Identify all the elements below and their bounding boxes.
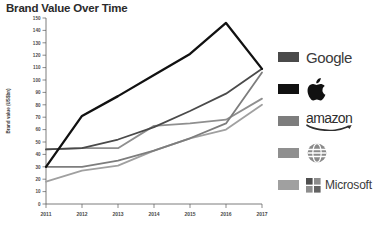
legend-item-microsoft[interactable]: Microsoft <box>278 172 372 198</box>
y-tick-label: 120 <box>33 53 41 58</box>
plot-area: 0102030405060708090100110120130140150201… <box>0 14 270 231</box>
y-tick-label: 70 <box>35 115 41 120</box>
y-tick-label: 100 <box>33 78 41 83</box>
y-tick-label: 150 <box>33 16 41 21</box>
amazon-wordmark-icon: amazon <box>306 110 358 132</box>
x-tick-label: 2014 <box>148 211 159 217</box>
y-tick-label: 30 <box>35 165 41 170</box>
y-tick-label: 60 <box>35 127 41 132</box>
apple-logo-icon <box>306 78 326 100</box>
y-tick-label: 20 <box>35 177 41 182</box>
legend-item-amazon[interactable]: amazon <box>278 108 358 134</box>
legend-item-att[interactable] <box>278 140 328 166</box>
legend-swatch-google <box>278 52 299 62</box>
y-tick-label: 0 <box>38 202 41 207</box>
legend-item-apple[interactable] <box>278 76 326 102</box>
y-tick-label: 40 <box>35 152 41 157</box>
legend-label-google: Google <box>306 49 352 66</box>
x-tick-label: 2015 <box>184 211 195 217</box>
legend-swatch-amazon <box>278 116 299 126</box>
y-tick-label: 50 <box>35 140 41 145</box>
chart-title: Brand Value Over Time <box>6 2 128 14</box>
x-tick-label: 2016 <box>220 211 231 217</box>
x-tick-label: 2017 <box>256 211 267 217</box>
series-line-microsoft <box>46 105 262 182</box>
series-line-att <box>46 99 262 150</box>
legend-swatch-apple <box>278 84 299 94</box>
series-line-google <box>46 69 262 150</box>
microsoft-squares-icon: Microsoft <box>306 174 372 196</box>
series-line-apple <box>46 23 262 167</box>
legend-swatch-att <box>278 148 299 158</box>
legend-label-microsoft: Microsoft <box>325 178 372 192</box>
legend-swatch-microsoft <box>278 180 299 190</box>
y-tick-label: 10 <box>35 189 41 194</box>
chart-legend: Google amazon <box>278 44 378 204</box>
legend-item-google[interactable]: Google <box>278 44 352 70</box>
y-tick-label: 90 <box>35 90 41 95</box>
chart-container: Brand Value Over Time 010203040506070809… <box>0 0 378 231</box>
google-wordmark-icon: Google <box>306 46 352 68</box>
y-tick-label: 80 <box>35 103 41 108</box>
plot-svg: 0102030405060708090100110120130140150201… <box>0 14 270 231</box>
y-tick-label: 110 <box>33 65 41 70</box>
y-tick-label: 130 <box>33 41 41 46</box>
att-globe-icon <box>306 142 328 164</box>
y-axis-title: Brand value (US$bn) <box>6 88 11 134</box>
y-tick-label: 140 <box>33 28 41 33</box>
x-tick-label: 2012 <box>76 211 87 217</box>
x-tick-label: 2013 <box>112 211 123 217</box>
x-tick-label: 2011 <box>41 211 52 217</box>
